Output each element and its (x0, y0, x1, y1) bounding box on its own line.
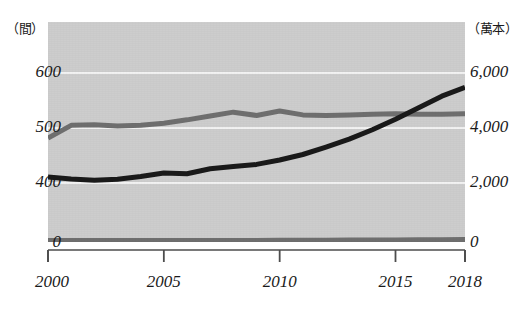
chart-container: （間） （萬本） 600 500 400 0 6,000 4,000 2,000… (0, 0, 522, 322)
left-tick-600: 600 (36, 62, 62, 82)
right-tick-4000: 4,000 (470, 117, 508, 137)
right-tick-6000: 6,000 (470, 62, 508, 82)
left-tick-500: 500 (36, 117, 62, 137)
x-tick-2000: 2000 (35, 272, 69, 292)
x-tick-2018: 2018 (448, 272, 482, 292)
x-tick-2005: 2005 (147, 272, 181, 292)
x-tick-2015: 2015 (379, 272, 413, 292)
left-tick-0: 0 (53, 232, 62, 252)
left-tick-400: 400 (36, 172, 62, 192)
right-tick-0: 0 (470, 232, 479, 252)
x-tick-2010: 2010 (263, 272, 297, 292)
right-tick-2000: 2,000 (470, 172, 508, 192)
axis-lines (0, 0, 522, 322)
